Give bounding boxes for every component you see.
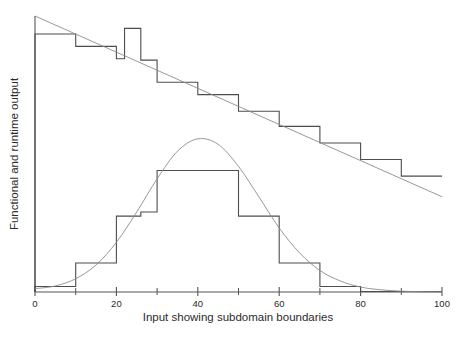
y-axis-title: Functional and runtime output [8, 77, 20, 230]
x-axis-tick-label: 20 [111, 298, 122, 309]
chart-plot-area: 020406080100 Input showing subdomain bou… [0, 0, 465, 337]
series-functional-output-trend [35, 16, 442, 197]
chart-container: 020406080100 Input showing subdomain bou… [0, 0, 465, 337]
x-axis-tick-label: 40 [193, 298, 204, 309]
x-axis-tick-label: 80 [355, 298, 366, 309]
x-axis-tick-label: 100 [434, 298, 450, 309]
x-axis-title: Input showing subdomain boundaries [143, 311, 334, 323]
series-runtime-output-step [35, 171, 442, 292]
x-axis-tick-label: 60 [274, 298, 285, 309]
x-axis-tick-label: 0 [32, 298, 37, 309]
series-functional-output-step [35, 28, 442, 292]
chart-series-group [35, 16, 442, 292]
x-axis-tick-labels: 020406080100 [32, 298, 450, 309]
